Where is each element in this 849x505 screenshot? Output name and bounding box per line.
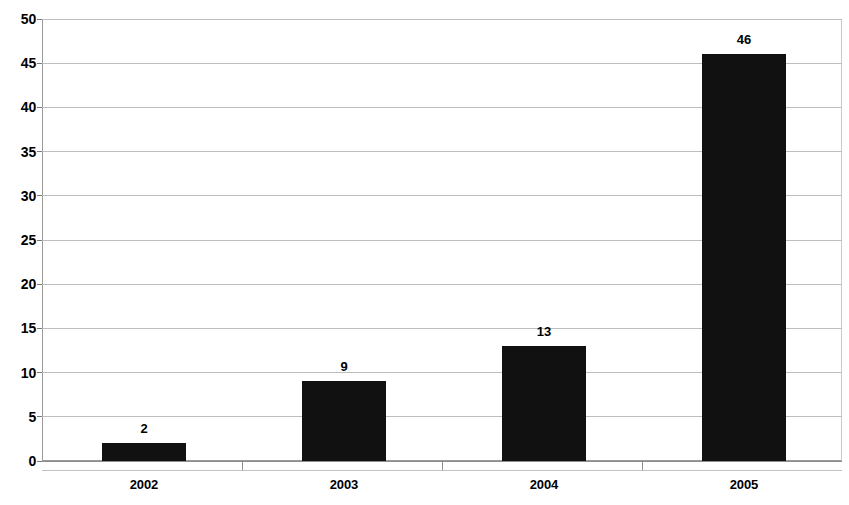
y-axis-label-40: 40: [2, 100, 36, 114]
y-axis-tick-45: [37, 63, 42, 64]
y-axis-label-10: 10: [2, 366, 36, 380]
y-axis-label-30: 30: [2, 189, 36, 203]
y-axis-tick-20: [37, 284, 42, 285]
y-axis-label-50: 50: [2, 12, 36, 26]
bar-2003[interactable]: [302, 381, 386, 461]
y-axis-tick-0: [37, 461, 42, 462]
y-axis-label-5: 5: [2, 410, 36, 424]
value-label-2003: 9: [340, 360, 347, 373]
y-axis-tick-50: [37, 19, 42, 20]
x-axis-label-2004: 2004: [530, 478, 559, 491]
x-axis-label-2005: 2005: [730, 478, 759, 491]
y-axis-tick-25: [37, 240, 42, 241]
y-axis-tick-30: [37, 195, 42, 196]
bar-chart: 05101520253035404550 291346 200220032004…: [0, 0, 849, 505]
bar-group: [43, 19, 842, 461]
y-axis-label-0: 0: [2, 454, 36, 468]
y-axis-tick-5: [37, 416, 42, 417]
x-axis-underline: [42, 470, 842, 471]
y-axis-label-45: 45: [2, 56, 36, 70]
y-axis-tick-15: [37, 328, 42, 329]
value-label-2005: 46: [737, 33, 751, 46]
bar-2004[interactable]: [502, 346, 586, 461]
value-label-2002: 2: [140, 422, 147, 435]
y-axis-tick-10: [37, 372, 42, 373]
y-axis-tick-40: [37, 107, 42, 108]
y-axis-label-15: 15: [2, 321, 36, 335]
bar-2002[interactable]: [102, 443, 186, 461]
y-axis-label-35: 35: [2, 145, 36, 159]
y-axis-label-20: 20: [2, 277, 36, 291]
y-axis-label-25: 25: [2, 233, 36, 247]
x-axis-label-2003: 2003: [330, 478, 359, 491]
value-label-2004: 13: [537, 325, 551, 338]
bar-2005[interactable]: [702, 54, 786, 461]
y-axis-label-group: 05101520253035404550: [0, 0, 36, 505]
x-axis-label-2002: 2002: [130, 478, 159, 491]
y-axis-tick-35: [37, 151, 42, 152]
